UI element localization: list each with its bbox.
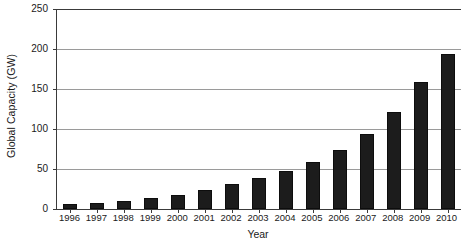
x-tick-label: 2010 (433, 212, 460, 226)
bar-2010 (441, 54, 455, 209)
bar-2006 (333, 150, 347, 209)
bar-2002 (225, 184, 239, 209)
bar-2001 (198, 190, 212, 209)
y-tick-mark (53, 209, 57, 210)
bar-slot (246, 9, 273, 209)
bar-slot (219, 9, 246, 209)
bar-slot (326, 9, 353, 209)
y-tick-mark (53, 49, 57, 50)
bar-slot (273, 9, 300, 209)
x-tick-label: 2003 (245, 212, 272, 226)
bar-slot (138, 9, 165, 209)
x-tick-label: 2001 (191, 212, 218, 226)
bar-slot (84, 9, 111, 209)
y-tick-label: 200 (31, 44, 48, 54)
y-tick-label: 100 (31, 124, 48, 134)
bar-chart-figure: Global Capacity (GW) 050100150200250 199… (0, 0, 468, 245)
x-tick-label: 1996 (56, 212, 83, 226)
bar-slot (299, 9, 326, 209)
bar-slot (380, 9, 407, 209)
x-tick-label: 1999 (137, 212, 164, 226)
x-tick-label: 2008 (379, 212, 406, 226)
x-tick-label: 1997 (83, 212, 110, 226)
bar-slot (353, 9, 380, 209)
bar-2007 (360, 134, 374, 209)
y-tick-label: 50 (37, 164, 48, 174)
y-tick-label: 0 (42, 204, 48, 214)
x-axis-title: Year (56, 228, 460, 240)
bar-2008 (387, 112, 401, 209)
x-tick-label: 2006 (325, 212, 352, 226)
y-tick-mark (53, 169, 57, 170)
x-tick-label: 2005 (298, 212, 325, 226)
x-tick-label: 2000 (164, 212, 191, 226)
bar-2005 (306, 162, 320, 209)
bar-1998 (117, 201, 131, 209)
x-tick-label: 2004 (272, 212, 299, 226)
y-axis-tick-labels: 050100150200250 (20, 0, 52, 212)
bar-slot (407, 9, 434, 209)
y-tick-label: 150 (31, 84, 48, 94)
x-tick-label: 2009 (406, 212, 433, 226)
bar-1999 (144, 198, 158, 209)
y-tick-label: 250 (31, 4, 48, 14)
bar-series (57, 9, 461, 209)
bar-2004 (279, 171, 293, 209)
x-tick-label: 1998 (110, 212, 137, 226)
bar-slot (165, 9, 192, 209)
bar-2009 (414, 82, 428, 209)
bar-slot (434, 9, 461, 209)
y-tick-mark (53, 89, 57, 90)
y-axis-title-text: Global Capacity (GW) (5, 54, 17, 158)
bar-slot (192, 9, 219, 209)
y-tick-mark (53, 9, 57, 10)
bar-2000 (171, 195, 185, 209)
y-axis-title: Global Capacity (GW) (0, 0, 22, 212)
x-tick-label: 2002 (218, 212, 245, 226)
x-tick-label: 2007 (352, 212, 379, 226)
bar-slot (111, 9, 138, 209)
plot-area (56, 9, 461, 210)
x-axis-tick-labels: 1996199719981999200020012002200320042005… (56, 212, 460, 226)
bar-2003 (252, 178, 266, 209)
bar-slot (57, 9, 84, 209)
y-tick-mark (53, 129, 57, 130)
